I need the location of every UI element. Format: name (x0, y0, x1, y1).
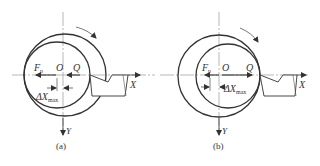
label-y-axis: Y (222, 126, 228, 136)
inner-circle (196, 44, 260, 108)
cutting-tool (90, 75, 128, 96)
panel-b: Fp O Q ΔXmax X Y (b) (160, 12, 308, 151)
diagram-canvas: Fp O Q ΔXmax X Y (a) Fp O Q ΔXmax (0, 0, 320, 166)
label-o: O (222, 62, 229, 73)
label-fp: Fp (201, 62, 211, 74)
label-q: Q (246, 62, 254, 73)
label-y-axis: Y (66, 126, 72, 136)
panel-a: Fp O Q ΔXmax X Y (a) (12, 12, 155, 151)
label-fp: Fp (33, 62, 43, 74)
label-q: Q (73, 62, 81, 73)
label-delta-x: ΔXmax (35, 91, 58, 103)
label-o: O (56, 62, 63, 73)
label-x-axis: X (129, 79, 137, 90)
label-delta-x: ΔXmax (223, 83, 246, 95)
rotation-arrow-icon (240, 28, 258, 42)
caption-a: (a) (56, 141, 66, 151)
cutting-tool (260, 75, 297, 96)
label-x-axis: X (298, 79, 306, 90)
caption-b: (b) (213, 141, 224, 151)
